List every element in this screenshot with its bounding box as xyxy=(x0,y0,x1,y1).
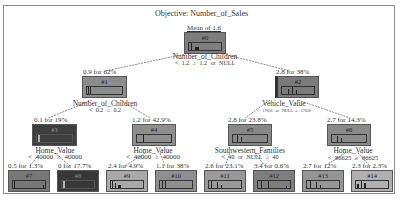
split-variable: Southwestern_Families xyxy=(205,147,295,154)
objective-title: Objective: Number_of_Sales xyxy=(0,9,403,18)
histogram xyxy=(86,86,123,95)
histogram xyxy=(355,180,389,189)
split-0: Number_of_Children < 1.2 ≥ 1.2 or NULL xyxy=(170,53,240,67)
histogram xyxy=(36,134,73,143)
node-label-10: 1.1 for 38% xyxy=(156,162,189,170)
histogram xyxy=(281,86,315,95)
node-label-7: 0.5 for 1.3% xyxy=(8,162,43,170)
split-conditions: < 40 or NULL ≥ 40 xyxy=(205,154,295,161)
histogram xyxy=(61,180,95,189)
tree-node-14[interactable]: #14 xyxy=(351,170,393,192)
split-variable: Number_of_Children xyxy=(65,100,145,107)
split-variable: Home_Value xyxy=(318,147,388,154)
node-id: #0 xyxy=(185,34,225,42)
histogram xyxy=(159,180,193,189)
node-id: #13 xyxy=(303,172,343,180)
tree-node-2[interactable]: #2 xyxy=(275,76,319,98)
node-label-9: 2.4 for 4.9% xyxy=(108,162,143,170)
split-5: Southwestern_Families < 40 or NULL ≥ 40 xyxy=(205,147,295,161)
histogram xyxy=(257,180,291,189)
split-conditions: < 1.2 ≥ 1.2 or NULL xyxy=(170,60,240,67)
tree-node-5[interactable]: #5 xyxy=(228,124,272,146)
tree-node-8[interactable]: #8 xyxy=(57,170,99,192)
node-id: #11 xyxy=(205,172,245,180)
histogram xyxy=(188,42,222,51)
node-label-5: 2.8 for 23.8% xyxy=(228,116,267,124)
split-6: Home_Value < 86625 ≥ 86625 xyxy=(318,147,388,161)
node-id: #3 xyxy=(33,126,76,134)
node-id: #5 xyxy=(229,126,271,134)
node-id: #7 xyxy=(9,172,49,180)
node-label-2: 2.8 for 38% xyxy=(276,68,309,76)
histogram xyxy=(331,134,367,143)
split-conditions: < 17656 or NULL ≥ 17656 xyxy=(244,107,324,114)
split-variable: Vehicle_Value xyxy=(244,100,324,107)
split-3: Home_Value < 40000 ≥ 40000 xyxy=(20,147,90,161)
tree-node-4[interactable]: #4 xyxy=(132,124,176,146)
node-label-11: 2.6 for 23.1% xyxy=(205,162,244,170)
node-label-6: 2.7 for 14.3% xyxy=(327,116,366,124)
split-conditions: < 40000 ≥ 40000 xyxy=(118,154,188,161)
node-label-1: 0.9 for 62% xyxy=(83,68,116,76)
tree-node-12[interactable]: #12 xyxy=(253,170,295,192)
node-id: #10 xyxy=(156,172,196,180)
node-label-12: 3.4 for 0.6% xyxy=(254,162,289,170)
tree-node-1[interactable]: #1 xyxy=(82,76,127,98)
tree-node-10[interactable]: #10 xyxy=(155,170,197,192)
histogram xyxy=(232,134,268,143)
node-label-8: 0 for 17.7% xyxy=(58,162,91,170)
split-variable: Number_of_Children xyxy=(170,53,240,60)
node-label-3: 0.1 for 19% xyxy=(34,116,67,124)
split-4: Home_Value < 40000 ≥ 40000 xyxy=(118,147,188,161)
node-id: #14 xyxy=(352,172,392,180)
node-id: #6 xyxy=(328,126,370,134)
tree-node-0[interactable]: #0 xyxy=(184,32,226,54)
tree-node-9[interactable]: #9 xyxy=(106,170,148,192)
node-id: #1 xyxy=(83,78,126,86)
node-id: #8 xyxy=(58,172,98,180)
tree-node-11[interactable]: #11 xyxy=(204,170,246,192)
histogram xyxy=(136,134,172,143)
node-label-4: 1.2 for 42.9% xyxy=(132,116,171,124)
node-label-13: 2.7 for 12% xyxy=(303,162,336,170)
split-2: Vehicle_Value < 17656 or NULL ≥ 17656 xyxy=(244,100,324,114)
node-id: #4 xyxy=(133,126,175,134)
split-conditions: < 40000 ≥ 40000 xyxy=(20,154,90,161)
node-id: #9 xyxy=(107,172,147,180)
histogram xyxy=(306,180,340,189)
histogram xyxy=(12,180,46,189)
node-label-14: 2.3 for 2.3% xyxy=(352,162,387,170)
histogram xyxy=(208,180,242,189)
split-1: Number_of_Children < 0.2 ≥ 0.2 xyxy=(65,100,145,114)
tree-node-7[interactable]: #7 xyxy=(8,170,50,192)
tree-node-3[interactable]: #3 xyxy=(32,124,77,146)
node-id: #12 xyxy=(254,172,294,180)
node-id: #2 xyxy=(278,78,318,86)
node-label-0: Mean of 1.6 xyxy=(187,24,221,32)
histogram xyxy=(110,180,144,189)
split-conditions: < 86625 ≥ 86625 xyxy=(318,154,388,161)
tree-node-13[interactable]: #13 xyxy=(302,170,344,192)
tree-node-6[interactable]: #6 xyxy=(327,124,371,146)
split-conditions: < 0.2 ≥ 0.2 xyxy=(65,107,145,114)
